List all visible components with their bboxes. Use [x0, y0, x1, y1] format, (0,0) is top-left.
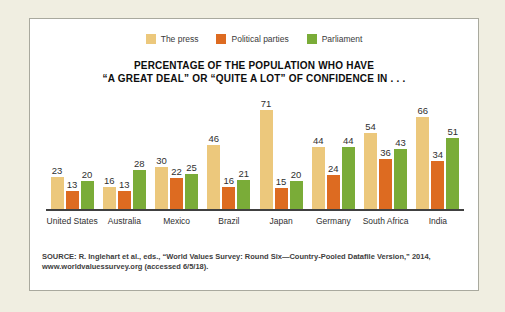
legend-item-press: The press — [146, 34, 199, 44]
bar — [118, 191, 131, 209]
bar-column: 46 — [207, 133, 220, 209]
bar-value-label: 23 — [52, 165, 63, 176]
bar-column: 22 — [170, 166, 183, 209]
bar-value-label: 24 — [328, 163, 339, 174]
bar-column: 36 — [379, 147, 392, 209]
bar-value-label: 54 — [365, 121, 376, 132]
legend-label: Political parties — [231, 34, 288, 44]
bar-column: 21 — [237, 168, 250, 209]
bar-value-label: 44 — [343, 135, 354, 146]
bar — [222, 187, 235, 209]
bar-column: 23 — [51, 165, 64, 209]
source-line1: SOURCE: R. Inglehart et al., eds., “Worl… — [42, 252, 468, 262]
bar-group: 461621 — [207, 133, 250, 209]
source-line2: www.worldvaluessurvey.org (accessed 6/5/… — [42, 262, 468, 272]
bar-value-label: 36 — [380, 147, 391, 158]
parliament-swatch-icon — [307, 34, 317, 44]
bar — [133, 170, 146, 209]
bar — [312, 147, 325, 209]
bar — [51, 177, 64, 209]
bar-value-label: 34 — [433, 149, 444, 160]
chart-title-line2: “A GREAT DEAL” OR “QUITE A LOT” OF CONFI… — [30, 73, 478, 86]
bar-column: 28 — [133, 158, 146, 209]
bar — [364, 133, 377, 209]
political-parties-swatch-icon — [216, 34, 226, 44]
bar-value-label: 71 — [261, 98, 272, 109]
bar-column: 16 — [222, 175, 235, 209]
bar-column: 71 — [260, 98, 273, 209]
bar — [327, 175, 340, 209]
x-axis-label: India — [412, 216, 464, 226]
x-axis-label: United States — [46, 216, 98, 226]
bar-column: 51 — [446, 126, 459, 209]
bar-value-label: 22 — [171, 166, 182, 177]
bar — [66, 191, 79, 209]
bar — [446, 138, 459, 209]
bar — [260, 110, 273, 209]
x-axis-label: Australia — [98, 216, 150, 226]
chart-title-line1: PERCENTAGE OF THE POPULATION WHO HAVE — [30, 60, 478, 73]
bar-group: 161328 — [103, 158, 146, 209]
bar-value-label: 46 — [209, 133, 220, 144]
source-citation: SOURCE: R. Inglehart et al., eds., “Worl… — [42, 252, 468, 271]
bar-value-label: 43 — [395, 137, 406, 148]
bar — [103, 187, 116, 209]
bar-group: 231320 — [51, 165, 94, 209]
bar — [155, 167, 168, 209]
bar — [170, 178, 183, 209]
bar-column: 16 — [103, 175, 116, 209]
bar — [416, 117, 429, 209]
bar-column: 34 — [431, 149, 444, 209]
bar — [275, 188, 288, 209]
bar — [290, 181, 303, 209]
bar — [185, 174, 198, 209]
bar-column: 30 — [155, 155, 168, 209]
bar-value-label: 13 — [67, 179, 78, 190]
x-axis-label: South Africa — [360, 216, 412, 226]
bar — [379, 159, 392, 209]
bar-value-label: 51 — [448, 126, 459, 137]
bar-value-label: 16 — [104, 175, 115, 186]
bar-column: 66 — [416, 105, 429, 209]
bar-column: 43 — [394, 137, 407, 209]
bar-group: 442444 — [312, 135, 355, 209]
bar-column: 13 — [118, 179, 131, 209]
legend-label: The press — [161, 34, 199, 44]
bar-value-label: 16 — [224, 175, 235, 186]
legend-label: Parliament — [322, 34, 363, 44]
x-axis-label: Brazil — [203, 216, 255, 226]
bar-value-label: 15 — [276, 176, 287, 187]
bar — [237, 180, 250, 209]
bar — [81, 181, 94, 209]
bar-value-label: 30 — [156, 155, 167, 166]
bar-column: 20 — [81, 169, 94, 209]
bar-value-label: 25 — [186, 162, 197, 173]
bar-column: 44 — [312, 135, 325, 209]
bar-value-label: 44 — [313, 135, 324, 146]
bar-column: 24 — [327, 163, 340, 209]
x-axis-label: Japan — [255, 216, 307, 226]
chart-legend: The press Political parties Parliament — [30, 34, 478, 44]
x-axis-label: Germany — [307, 216, 359, 226]
bar-value-label: 13 — [119, 179, 130, 190]
x-axis-label: Mexico — [151, 216, 203, 226]
chart-title: PERCENTAGE OF THE POPULATION WHO HAVE “A… — [30, 60, 478, 85]
bar-column: 20 — [290, 169, 303, 209]
bar-column: 15 — [275, 176, 288, 209]
bar-value-label: 20 — [291, 169, 302, 180]
bar-group: 711520 — [260, 98, 303, 209]
press-swatch-icon — [146, 34, 156, 44]
bar — [431, 161, 444, 209]
bar-value-label: 21 — [239, 168, 250, 179]
bar-value-label: 28 — [134, 158, 145, 169]
bar — [342, 147, 355, 209]
bar — [394, 149, 407, 209]
bar-column: 25 — [185, 162, 198, 209]
bar-column: 13 — [66, 179, 79, 209]
page-background: { "page": { "background_color": "#f0eee1… — [0, 0, 505, 312]
bar-column: 44 — [342, 135, 355, 209]
legend-item-political-parties: Political parties — [216, 34, 288, 44]
legend-item-parliament: Parliament — [307, 34, 363, 44]
chart-panel: The press Political parties Parliament P… — [29, 18, 479, 291]
bar-value-label: 20 — [82, 169, 93, 180]
